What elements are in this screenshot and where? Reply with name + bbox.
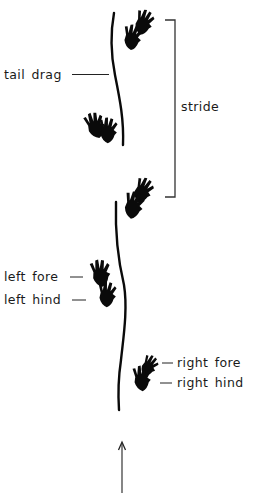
- left-hind-label: left hind: [4, 292, 61, 307]
- tail-drag-label: tail drag: [4, 67, 62, 82]
- track-diagram: stride tail drag left fore left hind rig…: [0, 0, 255, 501]
- right-fore-label: right fore: [177, 355, 241, 370]
- left-fore-label: left fore: [4, 269, 58, 284]
- tail-drag-line-lower: [116, 202, 126, 410]
- stride-bracket: [165, 20, 175, 197]
- footprint-left-fore: [89, 259, 111, 288]
- direction-arrow-up-icon: [119, 442, 126, 493]
- right-hind-label: right hind: [177, 375, 244, 390]
- stride-label: stride: [181, 99, 219, 114]
- footprint-left-hind: [97, 281, 117, 308]
